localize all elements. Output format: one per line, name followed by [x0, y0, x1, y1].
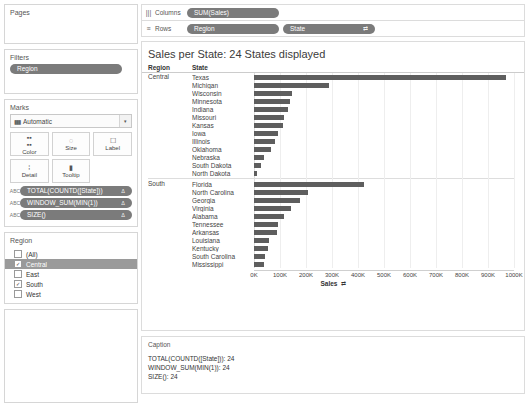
columns-shelf[interactable]: ||| Columns SUM(Sales): [141, 4, 525, 20]
bar-mark[interactable]: [254, 262, 264, 267]
bar-row[interactable]: Mississippi: [142, 260, 524, 268]
bar-row[interactable]: Indiana: [142, 105, 524, 113]
bar-mark[interactable]: [254, 131, 278, 136]
marks-pill-total-countd[interactable]: TOTAL(COUNTD([State])) Δ: [20, 186, 132, 196]
bar-row[interactable]: South Dakota: [142, 161, 524, 169]
bar-mark[interactable]: [254, 238, 269, 243]
state-label[interactable]: Arkansas: [192, 229, 254, 236]
rows-pill-state[interactable]: State ⇄: [283, 24, 375, 34]
bar-row[interactable]: Florida: [142, 180, 524, 188]
state-label[interactable]: Louisiana: [192, 237, 254, 244]
bar-mark[interactable]: [254, 75, 506, 80]
bar-mark[interactable]: [254, 83, 329, 88]
region-filter-item-east[interactable]: East: [5, 269, 137, 279]
state-label[interactable]: Nebraska: [192, 154, 254, 161]
bar-mark[interactable]: [254, 222, 278, 227]
bar-mark[interactable]: [254, 115, 284, 120]
tooltip-button[interactable]: ▮ Tooltip: [52, 159, 91, 183]
rows-shelf[interactable]: ≡ Rows Region State ⇄: [141, 20, 525, 37]
bar-row[interactable]: Nebraska: [142, 153, 524, 161]
bar-mark[interactable]: [254, 254, 265, 259]
region-filter-item-all[interactable]: (All): [5, 249, 137, 259]
state-label[interactable]: North Dakota: [192, 170, 254, 177]
bar-mark[interactable]: [254, 155, 264, 160]
bar-mark[interactable]: [254, 123, 283, 128]
state-label[interactable]: Kansas: [192, 122, 254, 129]
bar-row[interactable]: Oklahoma: [142, 145, 524, 153]
state-label[interactable]: Kentucky: [192, 245, 254, 252]
bar-row[interactable]: Minnesota: [142, 97, 524, 105]
bar-row[interactable]: Arkansas: [142, 228, 524, 236]
sort-icon[interactable]: ⇄: [363, 24, 368, 34]
columns-pill-sum-sales[interactable]: SUM(Sales): [187, 8, 279, 18]
bar-mark[interactable]: [254, 139, 275, 144]
sort-icon[interactable]: ⇄: [341, 281, 346, 287]
detail-button[interactable]: ⁞ Detail: [10, 159, 49, 183]
region-filter-item-south[interactable]: ✓South: [5, 279, 137, 289]
marks-pill-window-sum[interactable]: WINDOW_SUM(MIN(1)) Δ: [20, 198, 132, 208]
bar-row[interactable]: Kansas: [142, 121, 524, 129]
bar-mark[interactable]: [254, 147, 271, 152]
bar-row[interactable]: Kentucky: [142, 244, 524, 252]
chevron-down-icon[interactable]: ▾: [119, 115, 131, 127]
bar-mark[interactable]: [254, 206, 291, 211]
state-label[interactable]: Florida: [192, 181, 254, 188]
state-label[interactable]: South Carolina: [192, 253, 254, 260]
state-label[interactable]: North Carolina: [192, 189, 254, 196]
bar-row[interactable]: Louisiana: [142, 236, 524, 244]
mark-type-dropdown[interactable]: ▮▮▮ Automatic ▾: [10, 114, 132, 128]
checkbox-icon[interactable]: ✓: [14, 260, 22, 268]
state-label[interactable]: Wisconsin: [192, 90, 254, 97]
bar-row[interactable]: North Dakota: [142, 169, 524, 177]
state-label[interactable]: Illinois: [192, 138, 254, 145]
bar-row[interactable]: Texas: [142, 73, 524, 81]
region-filter-item-central[interactable]: ✓Central: [5, 259, 137, 269]
state-label[interactable]: Missouri: [192, 114, 254, 121]
bar-mark[interactable]: [254, 171, 257, 176]
state-label[interactable]: Mississippi: [192, 261, 254, 268]
bar-row[interactable]: Wisconsin: [142, 89, 524, 97]
bar-mark[interactable]: [254, 190, 308, 195]
bar-row[interactable]: South Carolina: [142, 252, 524, 260]
size-button[interactable]: ◌ Size: [52, 132, 91, 156]
bar-mark[interactable]: [254, 107, 288, 112]
bar-mark[interactable]: [254, 99, 290, 104]
bar-mark[interactable]: [254, 230, 277, 235]
checkbox-icon[interactable]: [14, 270, 22, 278]
bar-row[interactable]: Georgia: [142, 196, 524, 204]
bar-row[interactable]: Missouri: [142, 113, 524, 121]
bar-row[interactable]: Iowa: [142, 129, 524, 137]
bar-mark[interactable]: [254, 182, 364, 187]
bar-mark[interactable]: [254, 214, 284, 219]
bar-row[interactable]: Tennessee: [142, 220, 524, 228]
state-label[interactable]: Oklahoma: [192, 146, 254, 153]
state-label[interactable]: Iowa: [192, 130, 254, 137]
marks-pill-size[interactable]: SIZE() Δ: [20, 210, 132, 220]
state-label[interactable]: Virginia: [192, 205, 254, 212]
state-label[interactable]: Indiana: [192, 106, 254, 113]
filter-pill-region[interactable]: Region: [10, 64, 122, 74]
region-filter-item-west[interactable]: West: [5, 289, 137, 299]
checkbox-icon[interactable]: [14, 250, 22, 258]
state-label[interactable]: Georgia: [192, 197, 254, 204]
state-label[interactable]: Michigan: [192, 82, 254, 89]
bar-mark[interactable]: [254, 91, 292, 96]
bar-row[interactable]: North Carolina: [142, 188, 524, 196]
bar-row[interactable]: Virginia: [142, 204, 524, 212]
state-label[interactable]: Alabama: [192, 213, 254, 220]
label-button[interactable]: ☐ Label: [93, 132, 132, 156]
state-label[interactable]: Texas: [192, 74, 254, 81]
state-label[interactable]: South Dakota: [192, 162, 254, 169]
checkbox-icon[interactable]: ✓: [14, 280, 22, 288]
color-button[interactable]: ▪▪▪▪ Color: [10, 132, 49, 156]
bar-row[interactable]: Illinois: [142, 137, 524, 145]
checkbox-icon[interactable]: [14, 290, 22, 298]
bar-mark[interactable]: [254, 198, 300, 203]
bar-row[interactable]: Alabama: [142, 212, 524, 220]
state-label[interactable]: Minnesota: [192, 98, 254, 105]
state-label[interactable]: Tennessee: [192, 221, 254, 228]
rows-pill-region[interactable]: Region: [187, 24, 279, 34]
bar-mark[interactable]: [254, 163, 261, 168]
bar-row[interactable]: Michigan: [142, 81, 524, 89]
bar-mark[interactable]: [254, 246, 268, 251]
